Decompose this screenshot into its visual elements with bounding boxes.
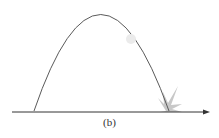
trajectory-curve — [34, 15, 169, 112]
axis-arrowhead — [203, 110, 210, 115]
projectile-ball — [126, 34, 136, 44]
figure-caption: (b) — [0, 116, 219, 128]
impact-splash — [158, 86, 182, 112]
